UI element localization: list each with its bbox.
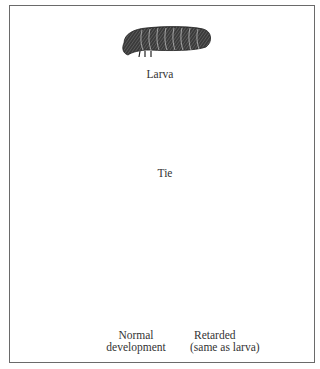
label-larva: Larva: [140, 68, 180, 80]
label-retarded-line2: (same as larva): [190, 341, 290, 353]
larva-illustration: [123, 27, 211, 57]
label-normal-line2: development: [96, 341, 176, 353]
label-retarded: Retarded (same as larva): [190, 329, 290, 353]
label-tie: Tie: [150, 167, 180, 179]
figure-illustrations: [0, 0, 320, 369]
label-retarded-line1: Retarded: [190, 329, 290, 341]
label-normal-line1: Normal: [96, 329, 176, 341]
label-normal-development: Normal development: [96, 329, 176, 353]
